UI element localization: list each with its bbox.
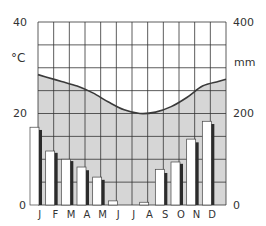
right-axis-tick-200: 200 <box>233 108 254 119</box>
month-label: N <box>189 209 205 220</box>
precip-bar-dark <box>39 130 42 205</box>
precip-bar-dark <box>164 173 167 205</box>
precip-bar-light <box>187 139 196 205</box>
month-label: O <box>173 209 189 220</box>
month-label: S <box>157 209 173 220</box>
month-label: D <box>204 209 220 220</box>
climate-chart <box>0 0 266 226</box>
precip-bar-dark <box>70 161 73 205</box>
precip-bar-light <box>61 159 70 205</box>
precip-bar-light <box>202 121 211 205</box>
precip-bar-dark <box>55 153 58 205</box>
month-label: A <box>142 209 158 220</box>
precip-bar-light <box>155 169 164 205</box>
month-label: J <box>32 209 48 220</box>
precip-bar-light <box>140 202 149 205</box>
precip-bar-dark <box>196 142 199 205</box>
precip-bar-light <box>30 127 39 205</box>
precip-bar-light <box>171 162 180 205</box>
precip-bar-light <box>46 151 55 205</box>
month-label: A <box>79 209 95 220</box>
month-label: J <box>110 209 126 220</box>
precip-bar-dark <box>180 164 183 205</box>
month-label: M <box>63 209 79 220</box>
precip-bar-light <box>93 177 102 205</box>
precip-bar-dark <box>211 124 214 205</box>
left-axis-tick-20: 20 <box>13 108 27 119</box>
month-label: F <box>48 209 64 220</box>
left-axis-tick-0: 0 <box>19 200 26 211</box>
right-axis-unit: mm <box>234 57 255 68</box>
precip-bar-light <box>108 201 117 205</box>
left-axis-tick-40: 40 <box>13 17 27 28</box>
precip-bar-dark <box>102 180 105 205</box>
month-label: J <box>126 209 142 220</box>
precip-bar-dark <box>86 170 89 205</box>
left-axis-unit: °C <box>11 52 25 64</box>
right-axis-tick-0: 0 <box>233 200 240 211</box>
precip-bar-light <box>77 167 86 205</box>
right-axis-tick-400: 400 <box>233 17 254 28</box>
month-label: M <box>95 209 111 220</box>
